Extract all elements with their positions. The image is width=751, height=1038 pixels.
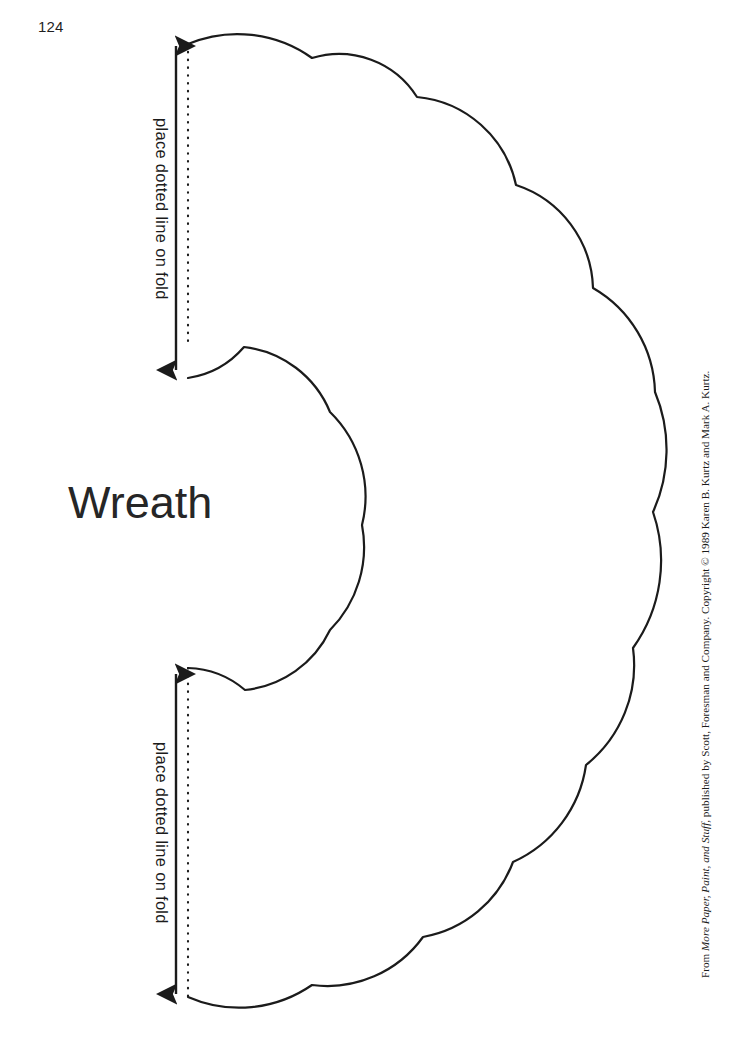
fold-marker-top [176, 44, 188, 370]
pattern-page: 124 Wreath place dotted line on fold pla… [0, 0, 751, 1038]
wreath-outer-edge [188, 34, 667, 1008]
wreath-inner-edge [188, 347, 366, 690]
wreath-pattern-drawing [0, 0, 751, 1038]
fold-marker-bottom [176, 668, 188, 997]
